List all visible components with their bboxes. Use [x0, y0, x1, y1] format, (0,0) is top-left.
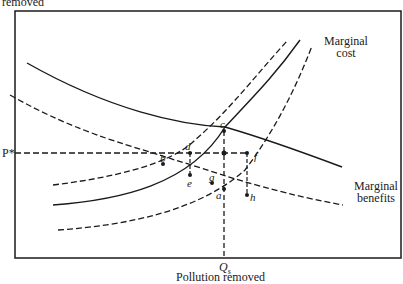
- label-d: d: [185, 141, 191, 152]
- marginal-benefits-shifted-curve: [10, 95, 343, 205]
- point-equilibrium: [222, 151, 227, 156]
- marginal-cost-curve: [53, 40, 300, 205]
- point-a: [222, 187, 226, 191]
- label-e: e: [187, 178, 192, 189]
- point-f: [245, 151, 249, 155]
- marginal-cost-label: Marginal cost: [316, 35, 376, 59]
- label-f: f: [254, 151, 257, 162]
- x-axis-label: Pollution removed: [176, 271, 265, 283]
- point-h: [245, 193, 249, 197]
- p-star-label: P*: [2, 147, 15, 159]
- marginal-cost-shifted-up-curve: [53, 40, 288, 185]
- y-axis-label: removed: [2, 0, 44, 8]
- marginal-benefits-label: Marginal benefits: [348, 180, 403, 204]
- label-g: g: [209, 172, 215, 183]
- label-c: c: [220, 119, 225, 130]
- label-a: a: [216, 190, 222, 201]
- label-h: h: [250, 192, 256, 203]
- label-b: b: [160, 153, 166, 164]
